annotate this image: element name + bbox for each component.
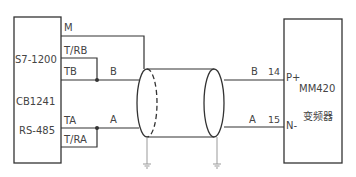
signal-a-right: A — [249, 114, 256, 125]
shield-left-front — [137, 69, 147, 137]
terminal-15: 15 — [268, 114, 280, 125]
plc-label-1: S7-1200 — [15, 54, 57, 65]
ground-icon-right — [213, 137, 221, 168]
drive-model: MM420 — [299, 83, 335, 94]
terminal-ta: TA — [63, 115, 76, 126]
signal-b-left: B — [110, 66, 117, 77]
terminal-14: 14 — [268, 66, 280, 77]
ground-icon-left — [143, 137, 151, 168]
drive-terminal-p: P+ — [286, 72, 300, 83]
terminal-tra: T/RA — [63, 134, 87, 145]
plc-label-3: RS-485 — [19, 125, 55, 136]
shield-left-back — [147, 69, 157, 137]
signal-a-left: A — [110, 114, 117, 125]
plc-label-2: CB1241 — [16, 96, 55, 107]
terminal-m: M — [64, 22, 73, 33]
shield-right — [204, 69, 224, 137]
drive-type: 变频器 — [303, 110, 333, 122]
plc-box — [14, 17, 61, 163]
terminal-tb: TB — [63, 66, 77, 77]
wiring-diagram: S7-1200 CB1241 RS-485 M T/RB TB TA T/RA … — [0, 0, 356, 177]
signal-b-right: B — [251, 66, 258, 77]
junction-b — [95, 78, 99, 82]
drive-terminal-n: N- — [286, 120, 297, 131]
terminal-trb: T/RB — [63, 45, 87, 56]
